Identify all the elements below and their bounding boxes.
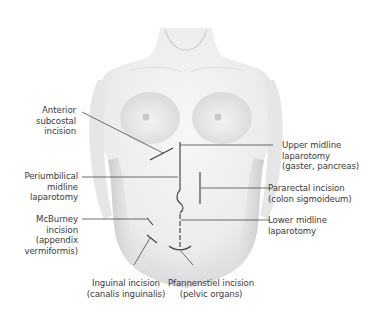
- label-line: Lower midline: [268, 215, 327, 226]
- label-line: (colon sigmoideum): [268, 194, 352, 205]
- label-line: incision: [8, 225, 78, 236]
- incision-diagram: Anterior subcostal incision Periumbilica…: [0, 0, 373, 317]
- label-upper-midline-laparotomy: Upper midline laparotomy (gaster, pancre…: [282, 140, 359, 172]
- label-lower-midline-laparotomy: Lower midline laparotomy: [268, 215, 327, 236]
- label-line: (appendix: [8, 235, 78, 246]
- label-line: Pfannenstiel incision: [158, 278, 264, 289]
- label-pararectal-incision: Pararectal incision (colon sigmoideum): [268, 183, 352, 204]
- label-line: (gaster, pancreas): [282, 161, 359, 172]
- label-line: laparotomy: [8, 192, 78, 203]
- label-line: vermiformis): [8, 246, 78, 257]
- label-anterior-subcostal-incision: Anterior subcostal incision: [8, 105, 76, 137]
- label-line: midline: [8, 182, 78, 193]
- label-pfannenstiel-incision: Pfannenstiel incision (pelvic organs): [158, 278, 264, 299]
- label-mcburney-incision: McBurney incision (appendix vermiformis): [8, 214, 78, 256]
- label-line: subcostal: [8, 116, 76, 127]
- label-line: McBurney: [8, 214, 78, 225]
- label-line: laparotomy: [268, 226, 327, 237]
- label-line: Anterior: [8, 105, 76, 116]
- label-line: Periumbilical: [8, 171, 78, 182]
- label-line: (pelvic organs): [158, 289, 264, 300]
- label-line: laparotomy: [282, 151, 359, 162]
- label-periumbilical-midline-laparotomy: Periumbilical midline laparotomy: [8, 171, 78, 203]
- label-line: Pararectal incision: [268, 183, 352, 194]
- label-line: incision: [8, 126, 76, 137]
- label-line: Upper midline: [282, 140, 359, 151]
